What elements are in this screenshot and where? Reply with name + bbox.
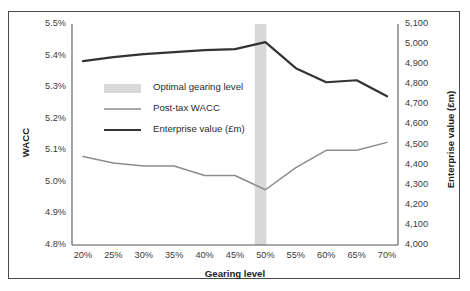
x-axis-tick-label: 50% — [249, 250, 281, 260]
y2-axis-tick-label: 4,700 — [405, 98, 445, 108]
x-axis-tick-label: 70% — [371, 250, 403, 260]
y-axis-tick-label: 5.1% — [28, 144, 66, 154]
series-line-post-tax-wacc — [83, 142, 387, 189]
x-axis-tick-label: 55% — [280, 250, 312, 260]
x-axis-title: Gearing level — [175, 268, 295, 279]
x-axis-tick-label: 20% — [67, 250, 99, 260]
y2-axis-tick-label: 4,100 — [405, 219, 445, 229]
y-axis-tick-label: 4.8% — [28, 239, 66, 249]
legend-swatch-band — [104, 84, 141, 93]
y2-axis-tick-label: 4,400 — [405, 159, 445, 169]
y-axis-tick-label: 5.4% — [28, 50, 66, 60]
y-axis-title: WACC — [20, 113, 31, 173]
y2-axis-tick-label: 4,200 — [405, 199, 445, 209]
x-axis-tick-label: 30% — [128, 250, 160, 260]
y-axis-tick-label: 5.0% — [28, 176, 66, 186]
legend-label: Optimal gearing level — [153, 81, 243, 92]
x-axis-tick-label: 35% — [158, 250, 190, 260]
x-axis-tick-label: 40% — [189, 250, 221, 260]
x-axis-tick-label: 45% — [219, 250, 251, 260]
legend-label: Post-tax WACC — [153, 102, 220, 113]
y-axis-tick-label: 5.2% — [28, 113, 66, 123]
y2-axis-tick-label: 5,100 — [405, 18, 445, 28]
legend-label: Enterprise value (£m) — [153, 123, 245, 134]
y2-axis-tick-label: 4,500 — [405, 139, 445, 149]
y-axis-tick-label: 5.3% — [28, 81, 66, 91]
y2-axis-title: Enterprise value (£m) — [445, 80, 456, 200]
x-axis-tick-label: 65% — [341, 250, 373, 260]
y-axis-tick-label: 4.9% — [28, 207, 66, 217]
y-axis-tick-label: 5.5% — [28, 18, 66, 28]
y2-axis-tick-label: 4,600 — [405, 118, 445, 128]
y2-axis-tick-label: 4,800 — [405, 78, 445, 88]
y2-axis-tick-label: 4,000 — [405, 239, 445, 249]
y2-axis-tick-label: 4,300 — [405, 179, 445, 189]
chart-figure: 4.8%4.9%5.0%5.1%5.2%5.3%5.4%5.5%4,0004,1… — [0, 0, 470, 291]
y2-axis-tick-label: 5,000 — [405, 38, 445, 48]
x-axis-tick-label: 60% — [310, 250, 342, 260]
y2-axis-tick-label: 4,900 — [405, 58, 445, 68]
x-axis-tick-label: 25% — [97, 250, 129, 260]
chart-plot-area — [0, 0, 470, 291]
optimal-gearing-band — [255, 24, 267, 245]
